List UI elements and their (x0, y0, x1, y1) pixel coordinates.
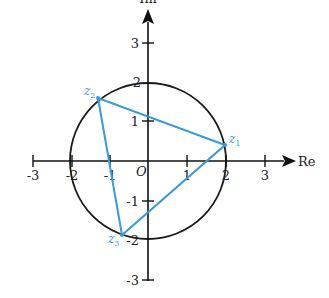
point-z3 (120, 233, 124, 237)
y-tick-label: 1 (131, 114, 139, 129)
origin-label: O (136, 164, 147, 179)
real-axis-arrow-icon (282, 155, 296, 167)
x-tick-label: -3 (27, 168, 40, 183)
label-z1: z1 (228, 132, 240, 148)
label-z3: z3 (107, 232, 119, 248)
complex-plane-diagram: -3 -2 -1 1 2 3 3 2 1 -1 -2 -3 Re Im O z1… (0, 0, 329, 298)
real-axis-label: Re (298, 154, 316, 169)
y-tick-label: 2 (133, 75, 141, 90)
point-z2 (96, 96, 100, 100)
y-tick-label: -3 (126, 273, 139, 288)
x-tick-label: 2 (222, 168, 230, 183)
point-z1 (223, 143, 227, 147)
y-tick-label: -2 (126, 233, 139, 248)
imag-axis-arrow-icon (142, 9, 154, 24)
y-tick-label: 3 (131, 36, 139, 51)
x-tick-label: -2 (66, 168, 79, 183)
label-z2: z2 (83, 84, 95, 100)
y-tick-label: -1 (126, 194, 139, 209)
x-tick-label: 3 (261, 168, 269, 183)
imag-axis-label: Im (139, 0, 156, 6)
